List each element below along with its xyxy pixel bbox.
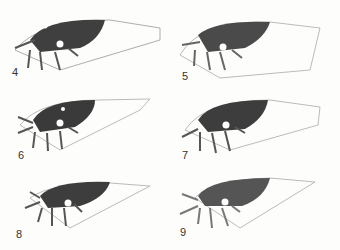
panel-label: 6 (18, 149, 24, 161)
figure-panel-7: 7 (170, 85, 340, 167)
wing-illustration (170, 168, 340, 250)
panel-label: 7 (182, 149, 188, 161)
wing-illustration (170, 0, 340, 82)
panel-label: 5 (182, 70, 188, 82)
panel-label: 4 (12, 66, 18, 78)
figure-panel-4: 4 (0, 0, 170, 82)
figure-panel-9: 9 (170, 168, 340, 250)
wing-illustration (0, 0, 170, 82)
figure-panel-8: 8 (0, 168, 170, 250)
figure-panel-6: 6 (0, 85, 170, 167)
panel-label: 9 (180, 226, 186, 238)
figure-panel-5: 5 (170, 0, 340, 82)
panel-label: 8 (16, 228, 22, 240)
wing-illustration (0, 85, 170, 167)
wing-illustration (0, 168, 170, 250)
wing-illustration (170, 85, 340, 167)
